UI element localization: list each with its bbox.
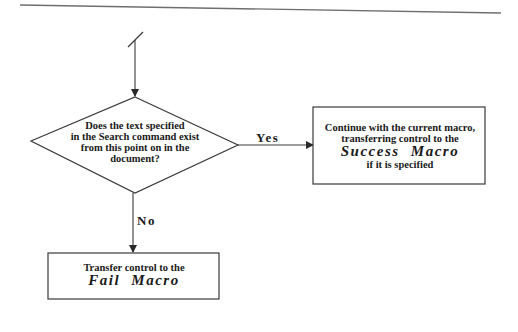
decision-line-4: document? (45, 153, 225, 164)
no-label: No (137, 213, 156, 229)
fail-macro-name: Fail Macro (48, 273, 220, 288)
fail-text: Transfer control to the Fail Macro (48, 262, 220, 288)
success-macro-name: Success Macro (314, 144, 486, 159)
decision-line-1: Does the text specified (45, 120, 225, 131)
decision-text: Does the text specified in the Search co… (45, 120, 225, 164)
success-text: Continue with the current macro, transfe… (314, 122, 486, 170)
decision-line-3: from this point on in the (45, 142, 225, 153)
success-line-1: Continue with the current macro, (314, 122, 486, 133)
success-line-tail: if it is specified (314, 159, 486, 170)
yes-label: Yes (256, 130, 279, 146)
top-rule (20, 5, 501, 13)
decision-line-2: in the Search command exist (45, 131, 225, 142)
